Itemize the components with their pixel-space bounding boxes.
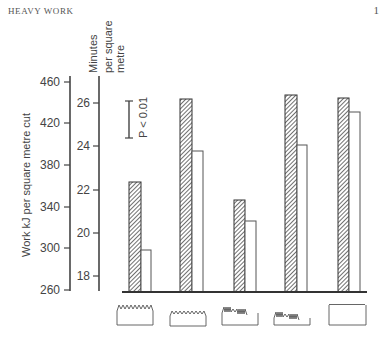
bar-3-minutes [245, 221, 256, 292]
bar-4-minutes [297, 145, 307, 292]
right-tick-22: 22 [77, 183, 91, 197]
right-tick-26: 26 [77, 96, 91, 110]
left-axis-title: Work kJ per square metre cut [20, 113, 32, 257]
bar-chart: 460 420 380 340 300 260 Work kJ per squa… [0, 0, 381, 342]
minutes-y-axis: 26 24 22 20 18 Minutes per square metre [77, 20, 126, 291]
right-tick-18: 18 [77, 269, 91, 283]
right-axis-title-3: metre [114, 45, 126, 73]
tooth-profile-icon-1 [117, 305, 153, 325]
right-axis-title-1: Minutes [87, 34, 99, 73]
bar-4-work [285, 95, 297, 292]
bar-3-work [234, 200, 245, 292]
p-value-label: P < 0.01 [137, 97, 149, 138]
left-tick-380: 380 [40, 158, 60, 172]
left-tick-260: 260 [40, 283, 60, 297]
bar-1-work [129, 182, 141, 292]
left-tick-300: 300 [40, 241, 60, 255]
left-y-axis: 460 420 380 340 300 260 Work kJ per squa… [20, 75, 70, 297]
bar-5-work [338, 98, 349, 292]
tooth-profile-icon-3 [222, 307, 258, 325]
bar-2-work [180, 99, 192, 292]
left-tick-340: 340 [40, 200, 60, 214]
left-tick-460: 460 [40, 75, 60, 89]
bar-5-minutes [349, 112, 360, 292]
tooth-profile-icon-4 [274, 312, 310, 325]
profile-icons [117, 304, 366, 326]
bar-1-minutes [141, 250, 151, 292]
bars [129, 95, 360, 292]
significance-marker: P < 0.01 [125, 97, 149, 138]
left-tick-420: 420 [40, 116, 60, 130]
right-tick-24: 24 [77, 139, 91, 153]
tooth-profile-icon-2 [170, 311, 206, 326]
bar-2-minutes [192, 151, 203, 292]
tooth-profile-icon-5 [329, 304, 366, 325]
right-axis-title-2: per square [102, 20, 114, 73]
right-tick-20: 20 [77, 226, 91, 240]
